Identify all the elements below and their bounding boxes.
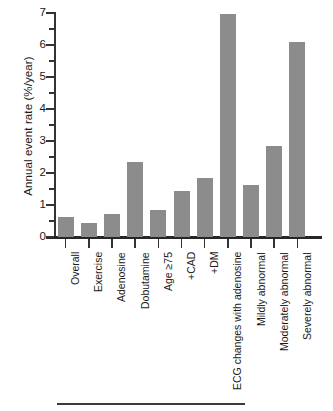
x-tick <box>88 239 90 248</box>
y-minor-tick <box>49 28 54 30</box>
y-tick-2 <box>46 172 54 174</box>
y-tick-label: 3 <box>26 135 46 147</box>
y-minor-tick <box>49 60 54 62</box>
bar <box>150 210 166 237</box>
y-tick-3 <box>46 140 54 142</box>
x-axis-label: Moderately abnormal <box>279 252 290 351</box>
y-tick-0 <box>46 236 54 238</box>
y-tick-label: 6 <box>26 39 46 51</box>
y-tick-label: 5 <box>26 71 46 83</box>
y-tick-7 <box>46 12 54 14</box>
x-tick <box>250 239 252 248</box>
y-tick-label: 0 <box>26 231 46 243</box>
x-tick <box>204 239 206 248</box>
y-tick-4 <box>46 108 54 110</box>
bar <box>58 217 74 237</box>
y-tick-1 <box>46 204 54 206</box>
chart-figure: Annual event rate (%/year) 01234567 Over… <box>0 0 333 411</box>
x-tick <box>297 239 299 248</box>
y-minor-tick <box>49 124 54 126</box>
bar <box>81 223 97 237</box>
x-axis-label: Adenosine <box>116 252 127 302</box>
bar <box>243 185 259 237</box>
x-tick <box>181 239 183 248</box>
x-axis-label: Age ≥75 <box>163 252 174 291</box>
bottom-rule <box>57 403 245 405</box>
x-axis-label: Overall <box>70 252 81 285</box>
x-axis-label: ECG changes with adenosine <box>232 252 243 390</box>
bar <box>127 162 143 237</box>
bar <box>289 42 305 237</box>
y-tick-label: 7 <box>26 7 46 19</box>
bar <box>174 191 190 237</box>
x-axis-label: Dobutamine <box>140 252 151 309</box>
y-tick-label: 4 <box>26 103 46 115</box>
bar <box>220 14 236 237</box>
y-tick-6 <box>46 44 54 46</box>
y-minor-tick <box>49 188 54 190</box>
x-tick <box>273 239 275 248</box>
y-minor-tick <box>49 156 54 158</box>
y-minor-tick <box>49 92 54 94</box>
plot-area: 01234567 <box>54 13 309 237</box>
x-tick <box>134 239 136 248</box>
x-tick <box>227 239 229 248</box>
x-axis-label: +CAD <box>186 252 197 280</box>
x-axis-label: Severely abnormal <box>302 252 313 340</box>
x-axis-label: +DM <box>209 252 220 274</box>
y-tick-label: 1 <box>26 199 46 211</box>
x-axis-label: Exercise <box>93 252 104 292</box>
x-tick <box>158 239 160 248</box>
y-axis-title: Annual event rate (%/year) <box>22 26 34 226</box>
bar <box>197 178 213 237</box>
x-axis-label: Mildly abnormal <box>256 252 267 326</box>
bar <box>266 146 282 237</box>
y-tick-5 <box>46 76 54 78</box>
x-tick <box>65 239 67 248</box>
x-tick <box>111 239 113 248</box>
y-minor-tick <box>49 220 54 222</box>
bar <box>104 214 120 237</box>
y-tick-label: 2 <box>26 167 46 179</box>
